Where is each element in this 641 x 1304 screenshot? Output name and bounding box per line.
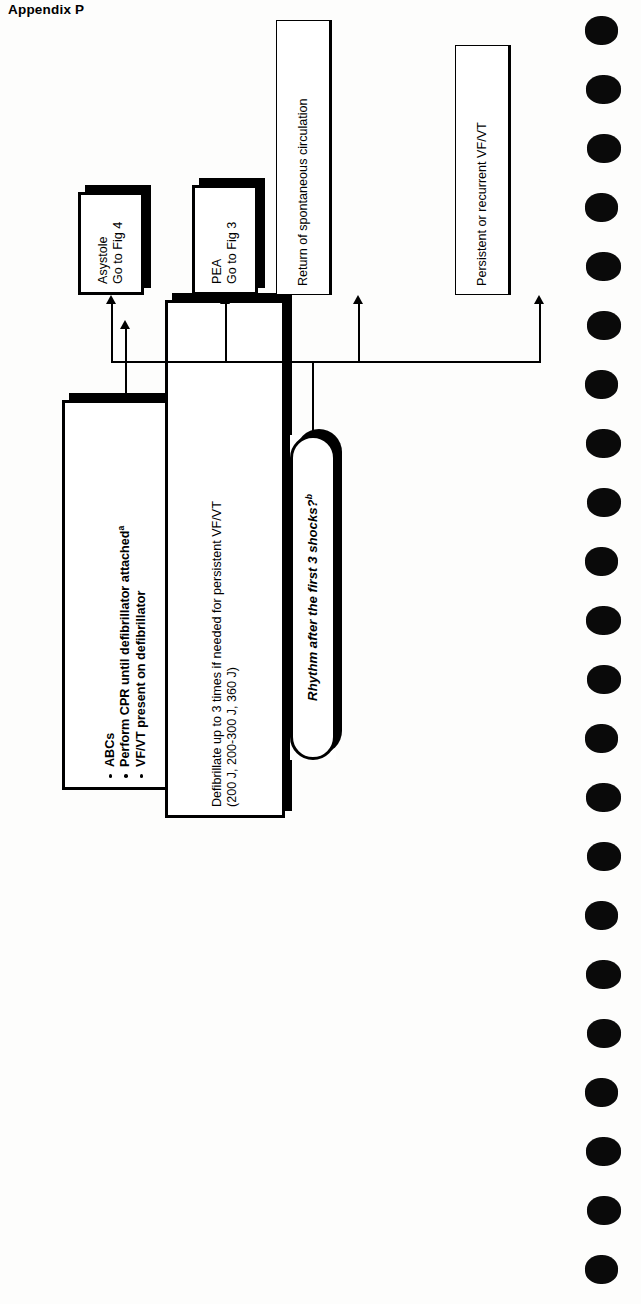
arrow-head [106, 295, 116, 304]
spiral-binding-holes [576, 0, 641, 1304]
connector-decision-stem [312, 361, 314, 435]
footnote-marker-b: b [303, 494, 313, 499]
arrow-head [120, 320, 130, 329]
connector-persistent-outflow [509, 45, 511, 295]
decision-text: Rhythm after the first 3 shocks?b [306, 494, 321, 701]
binding-hole [587, 665, 621, 694]
asystole-line-1: Asystole [96, 203, 111, 284]
defibrillate-line-2: (200 J, 200-300 J, 360 J) [225, 311, 240, 807]
footnote-marker-a: a [116, 526, 126, 531]
defibrillate-rest: up to 3 times if needed for persistent V… [210, 501, 224, 747]
rosc-line-1: Return of spontaneous circulation [296, 29, 311, 286]
binding-hole [586, 606, 621, 635]
binding-hole [586, 960, 621, 989]
connector-branch-asystole [111, 301, 113, 363]
initial-assessment-bullets: ABCs Perform CPR until defibrillator att… [103, 411, 149, 779]
connector-branch-rosc [358, 301, 360, 363]
arrow-head [534, 295, 544, 304]
flowchart-stage: ABCs Perform CPR until defibrillator att… [0, 0, 641, 1304]
binding-hole [585, 547, 618, 576]
list-item: ABCs [103, 411, 118, 779]
binding-hole [586, 252, 621, 281]
persistent-line-1: Persistent or recurrent VF/VT [475, 54, 490, 286]
connector-initial-to-defibrillate [125, 326, 127, 400]
arrow-head [220, 295, 230, 304]
connector-branch-persistent [539, 301, 541, 363]
page-canvas: Appendix P ABCs Perform CPR until defibr… [0, 0, 641, 1304]
binding-hole [585, 193, 618, 222]
pea-line-2: Go to Fig 3 [225, 196, 240, 284]
connector-branch-pea [225, 301, 227, 363]
flow-box-rosc[interactable]: Return of spontaneous circulation [276, 20, 330, 295]
list-item: VF/VT present on defibrillator [134, 411, 149, 779]
binding-hole [587, 134, 621, 163]
binding-hole [586, 783, 621, 812]
binding-hole [585, 901, 618, 930]
binding-hole [585, 724, 618, 753]
binding-hole [587, 842, 621, 871]
pea-line-1: PEA [210, 196, 225, 284]
binding-hole [586, 429, 621, 458]
list-item: Perform CPR until defibrillator attached… [118, 411, 133, 779]
binding-hole [585, 370, 618, 399]
binding-hole [586, 1137, 621, 1166]
binding-hole [586, 75, 621, 104]
arrow-head [353, 295, 363, 304]
asystole-line-2: Go to Fig 4 [111, 203, 126, 284]
binding-hole [587, 1196, 621, 1225]
defibrillate-line-1: Defibrillate up to 3 times if needed for… [210, 311, 225, 807]
binding-hole [585, 1255, 618, 1284]
flow-box-pea[interactable]: PEA Go to Fig 3 [192, 185, 258, 295]
flow-box-persistent-vf-vt[interactable]: Persistent or recurrent VF/VT [455, 45, 509, 295]
binding-hole [585, 1078, 618, 1107]
defibrillate-lead: Defibrillate [210, 748, 224, 808]
binding-hole [587, 311, 621, 340]
binding-hole [587, 1019, 621, 1048]
branch-spine [111, 361, 541, 363]
flow-decision-rhythm-check[interactable]: Rhythm after the first 3 shocks?b [290, 435, 336, 760]
connector-rosc-outflow [330, 20, 332, 295]
flow-box-defibrillate[interactable]: Defibrillate up to 3 times if needed for… [165, 300, 285, 818]
binding-hole [585, 16, 618, 45]
binding-hole [587, 488, 621, 517]
flow-box-asystole[interactable]: Asystole Go to Fig 4 [78, 192, 144, 295]
